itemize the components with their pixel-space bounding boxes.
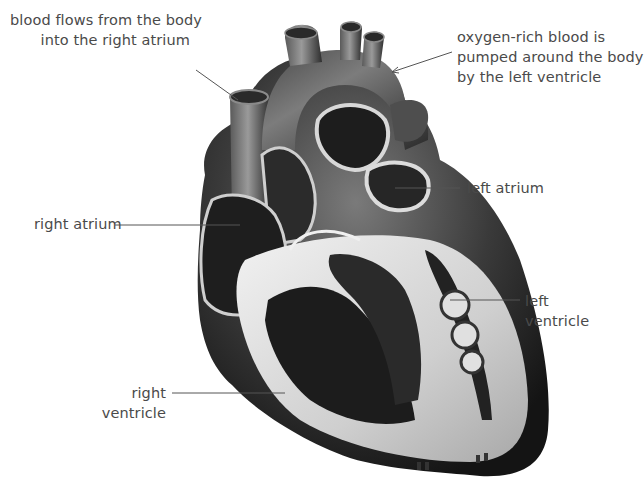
label-right-atrium: right atrium (34, 214, 122, 234)
label-left-atrium-line1: left atrium (467, 178, 544, 198)
leader-aorta (392, 52, 452, 72)
label-aorta-line3: by the left ventricle (457, 67, 644, 87)
label-left-atrium: left atrium (467, 178, 544, 198)
label-left-ventricle: left ventricle (525, 291, 589, 331)
label-aorta-line2: pumped around the body (457, 47, 644, 67)
label-aorta-line1: oxygen-rich blood is (457, 27, 644, 47)
label-right-atrium-line1: right atrium (34, 214, 122, 234)
label-right-ventricle-line1: right (96, 383, 166, 403)
left-atrium-cut (367, 163, 429, 211)
label-left-ventricle-line2: ventricle (525, 311, 589, 331)
label-right-ventricle: right ventricle (96, 383, 166, 423)
label-aorta: oxygen-rich blood is pumped around the b… (457, 27, 644, 87)
leader-vena-cava (196, 70, 238, 100)
label-vena-cava: blood flows from the body into the right… (10, 10, 190, 50)
label-left-ventricle-line1: left (525, 291, 589, 311)
label-right-ventricle-line2: ventricle (96, 403, 166, 423)
label-vena-cava-line1: blood flows from the body (10, 10, 190, 30)
label-vena-cava-line2: into the right atrium (10, 30, 190, 50)
